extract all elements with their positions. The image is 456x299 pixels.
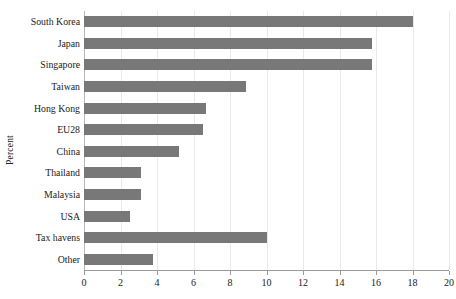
bar-row[interactable]	[84, 167, 449, 178]
x-tick-mark-0	[84, 271, 85, 275]
x-tick-label-0: 0	[64, 277, 104, 288]
x-tick-mark-6	[194, 271, 195, 275]
x-tick-label-16: 16	[356, 277, 396, 288]
bar-taiwan[interactable]	[84, 81, 246, 92]
x-tick-mark-14	[340, 271, 341, 275]
bar-row[interactable]	[84, 211, 449, 222]
bar-hong-kong[interactable]	[84, 103, 206, 114]
x-tick-mark-4	[157, 271, 158, 275]
bar-south-korea[interactable]	[84, 16, 413, 27]
x-tick-mark-8	[230, 271, 231, 275]
bar-tax-havens[interactable]	[84, 232, 267, 243]
category-label-china: China	[0, 146, 80, 157]
category-label-south-korea: South Korea	[0, 16, 80, 27]
x-tick-label-8: 8	[210, 277, 250, 288]
category-label-thailand: Thailand	[0, 167, 80, 178]
category-label-taiwan: Taiwan	[0, 81, 80, 92]
x-tick-mark-2	[121, 271, 122, 275]
bar-row[interactable]	[84, 103, 449, 114]
bar-row[interactable]	[84, 16, 449, 27]
x-tick-label-20: 20	[429, 277, 456, 288]
x-tick-mark-12	[303, 271, 304, 275]
x-tick-mark-16	[376, 271, 377, 275]
bar-chart-figure: Percent South KoreaJapanSingaporeTaiwanH…	[0, 0, 456, 299]
category-label-japan: Japan	[0, 38, 80, 49]
bar-eu28[interactable]	[84, 124, 203, 135]
bar-japan[interactable]	[84, 38, 372, 49]
category-label-singapore: Singapore	[0, 59, 80, 70]
x-tick-mark-18	[413, 271, 414, 275]
bar-singapore[interactable]	[84, 59, 372, 70]
x-tick-label-12: 12	[283, 277, 323, 288]
bar-usa[interactable]	[84, 211, 130, 222]
x-tick-label-14: 14	[320, 277, 360, 288]
x-tick-label-4: 4	[137, 277, 177, 288]
plot-area	[84, 11, 449, 270]
x-tick-label-2: 2	[101, 277, 141, 288]
bar-row[interactable]	[84, 124, 449, 135]
category-label-usa: USA	[0, 211, 80, 222]
x-tick-mark-20	[449, 271, 450, 275]
y-axis-tick-labels: South KoreaJapanSingaporeTaiwanHong Kong…	[0, 11, 80, 270]
bar-row[interactable]	[84, 254, 449, 265]
category-label-tax-havens: Tax havens	[0, 232, 80, 243]
x-tick-label-6: 6	[174, 277, 214, 288]
category-label-hong-kong: Hong Kong	[0, 103, 80, 114]
category-label-eu28: EU28	[0, 124, 80, 135]
bar-malaysia[interactable]	[84, 189, 141, 200]
bar-china[interactable]	[84, 146, 179, 157]
bar-row[interactable]	[84, 81, 449, 92]
x-tick-mark-10	[267, 271, 268, 275]
category-label-other: Other	[0, 254, 80, 265]
bar-row[interactable]	[84, 38, 449, 49]
gridline-20	[449, 11, 450, 270]
bar-row[interactable]	[84, 59, 449, 70]
x-tick-label-18: 18	[393, 277, 433, 288]
x-tick-label-10: 10	[247, 277, 287, 288]
bar-thailand[interactable]	[84, 167, 141, 178]
bar-row[interactable]	[84, 232, 449, 243]
bar-row[interactable]	[84, 146, 449, 157]
bar-other[interactable]	[84, 254, 153, 265]
bar-row[interactable]	[84, 189, 449, 200]
category-label-malaysia: Malaysia	[0, 189, 80, 200]
